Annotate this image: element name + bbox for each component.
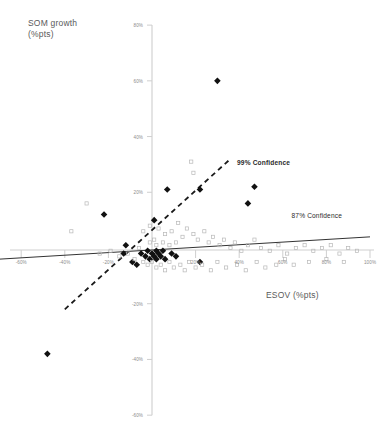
data-point-other	[277, 244, 280, 247]
data-point-other	[155, 244, 158, 247]
y-axis-tick-label: 60%	[134, 78, 144, 83]
data-point-other	[207, 241, 210, 244]
data-point-highlighted	[164, 186, 171, 193]
data-point-other	[347, 246, 350, 249]
data-point-other	[255, 260, 258, 263]
trendline-99	[65, 159, 231, 309]
data-point-highlighted	[251, 183, 258, 190]
data-point-highlighted	[197, 186, 204, 193]
data-point-other	[168, 260, 171, 263]
data-point-other	[177, 221, 180, 224]
data-point-other	[342, 260, 345, 263]
data-point-other	[209, 269, 212, 272]
data-point-other	[185, 227, 188, 230]
data-point-other	[229, 246, 232, 249]
y-axis-tick-label: 40%	[134, 134, 144, 139]
x-axis-tick-label: -60%	[16, 260, 27, 265]
data-point-other	[192, 232, 195, 235]
data-point-other	[259, 246, 262, 249]
data-point-highlighted	[245, 200, 252, 207]
x-axis-tick-label: -40%	[59, 260, 70, 265]
data-point-other	[253, 238, 256, 241]
data-point-other	[222, 238, 225, 241]
data-point-highlighted	[123, 242, 130, 249]
x-axis-tick-label: 20%	[191, 260, 201, 265]
scatter-chart: SOM growth (%pts) ESOV (%pts) 80%60%40%2…	[0, 0, 383, 442]
x-axis-tick-label: -20%	[103, 260, 114, 265]
data-point-other	[148, 224, 151, 227]
data-point-other	[85, 202, 88, 205]
x-axis-tick-label: 100%	[364, 260, 376, 265]
data-point-other	[179, 263, 182, 266]
data-point-highlighted	[44, 351, 51, 358]
data-point-other	[157, 227, 160, 230]
data-point-other	[192, 171, 195, 174]
data-point-other	[163, 269, 166, 272]
data-point-other	[142, 230, 145, 233]
data-point-other	[216, 260, 219, 263]
data-point-other	[174, 241, 177, 244]
y-axis-tick-label: -60%	[132, 413, 143, 418]
data-point-other	[307, 260, 310, 263]
data-point-other	[159, 263, 162, 266]
y-axis-tick-label: -20%	[132, 301, 143, 306]
data-point-other	[142, 260, 145, 263]
data-point-other	[303, 244, 306, 247]
y-axis-tick-label: -40%	[132, 357, 143, 362]
data-point-highlighted	[101, 211, 108, 218]
data-point-other	[172, 266, 175, 269]
data-point-other	[118, 255, 121, 258]
trendline-87	[0, 237, 370, 259]
data-point-other	[183, 269, 186, 272]
data-point-other	[161, 241, 164, 244]
data-point-other	[211, 235, 214, 238]
x-axis-tick-label: 80%	[322, 260, 332, 265]
data-point-other	[168, 244, 171, 247]
trendline-label-99-confidence: 99% Confidence	[237, 159, 290, 166]
data-point-other	[194, 266, 197, 269]
x-axis-tick-label: 60%	[278, 260, 288, 265]
data-point-other	[153, 238, 156, 241]
data-point-other	[203, 230, 206, 233]
data-point-other	[137, 246, 140, 249]
data-point-highlighted	[214, 78, 221, 85]
data-point-other	[155, 266, 158, 269]
data-point-other	[338, 252, 341, 255]
data-point-other	[294, 246, 297, 249]
data-point-other	[264, 266, 267, 269]
y-axis-tick-label: 80%	[134, 23, 144, 28]
trendline-label-87-confidence: 87% Confidence	[292, 212, 343, 219]
data-point-other	[233, 241, 236, 244]
data-point-other	[148, 241, 151, 244]
data-point-other	[190, 160, 193, 163]
data-point-other	[286, 252, 289, 255]
data-point-other	[181, 235, 184, 238]
data-point-other	[70, 230, 73, 233]
data-point-other	[163, 232, 166, 235]
data-point-other	[225, 266, 228, 269]
data-point-other	[292, 263, 295, 266]
data-point-other	[320, 246, 323, 249]
data-point-other	[329, 244, 332, 247]
data-point-other	[244, 269, 247, 272]
data-point-other	[196, 238, 199, 241]
data-point-other	[170, 230, 173, 233]
data-point-other	[146, 263, 149, 266]
plot-area	[0, 0, 383, 442]
y-axis-tick-label: 20%	[134, 190, 144, 195]
x-axis-tick-label: 40%	[234, 260, 244, 265]
